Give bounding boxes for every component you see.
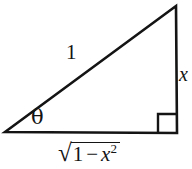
angle-theta-label: θ: [31, 107, 44, 128]
radicand-operator: −: [83, 142, 101, 166]
radicand-exponent: 2: [110, 141, 117, 156]
right-angle-marker-icon: [158, 114, 176, 132]
radicand-group: 1−x2: [71, 142, 120, 165]
radicand-variable: x: [101, 142, 110, 166]
adjacent-side-label: √ 1−x2: [58, 140, 120, 164]
radical-sign-icon: √: [58, 141, 72, 165]
opposite-side-label: x: [179, 64, 188, 84]
hypotenuse-label: 1: [66, 42, 77, 63]
radicand-one: 1: [73, 142, 84, 166]
